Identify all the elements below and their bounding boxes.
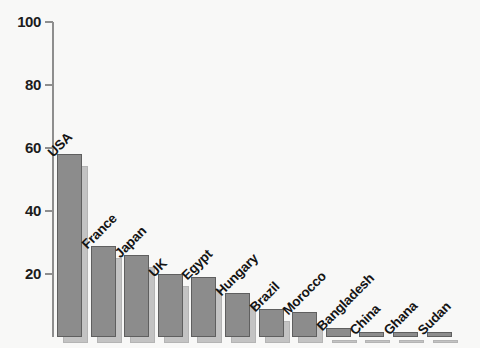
y-axis-tick-label: 100 bbox=[17, 14, 41, 29]
bar-shadow bbox=[433, 340, 458, 343]
bar-front bbox=[427, 332, 452, 337]
y-axis-tick-label: 20 bbox=[25, 266, 41, 281]
bar-front bbox=[359, 332, 384, 337]
bar-front bbox=[259, 309, 284, 337]
bar-front bbox=[292, 312, 317, 337]
y-axis-tick-mark bbox=[45, 21, 53, 23]
plot-area: 10080604020 USAFranceJapanUKEgyptHungary… bbox=[0, 0, 480, 348]
y-axis-tick-label: 40 bbox=[25, 203, 41, 218]
y-axis-line bbox=[52, 22, 54, 337]
bar-shadow bbox=[365, 340, 390, 343]
bar-front bbox=[57, 154, 82, 337]
bar-shadow bbox=[399, 340, 424, 343]
bar-front bbox=[191, 277, 216, 337]
y-axis-tick-mark bbox=[45, 84, 53, 86]
y-axis-tick-label: 80 bbox=[25, 77, 41, 92]
category-label: Morocco bbox=[281, 269, 329, 317]
bar-front bbox=[124, 255, 149, 337]
y-axis-tick-mark bbox=[45, 273, 53, 275]
bar-front bbox=[326, 328, 351, 337]
category-label: Hungary bbox=[213, 251, 260, 298]
y-axis-tick-label: 60 bbox=[25, 140, 41, 155]
bar-front bbox=[158, 274, 183, 337]
bar-front bbox=[393, 332, 418, 337]
bar-chart: 10080604020 USAFranceJapanUKEgyptHungary… bbox=[0, 0, 480, 348]
bar-front bbox=[225, 293, 250, 337]
y-axis-tick-mark bbox=[45, 210, 53, 212]
bar-shadow bbox=[332, 340, 357, 343]
bar-front bbox=[91, 246, 116, 337]
